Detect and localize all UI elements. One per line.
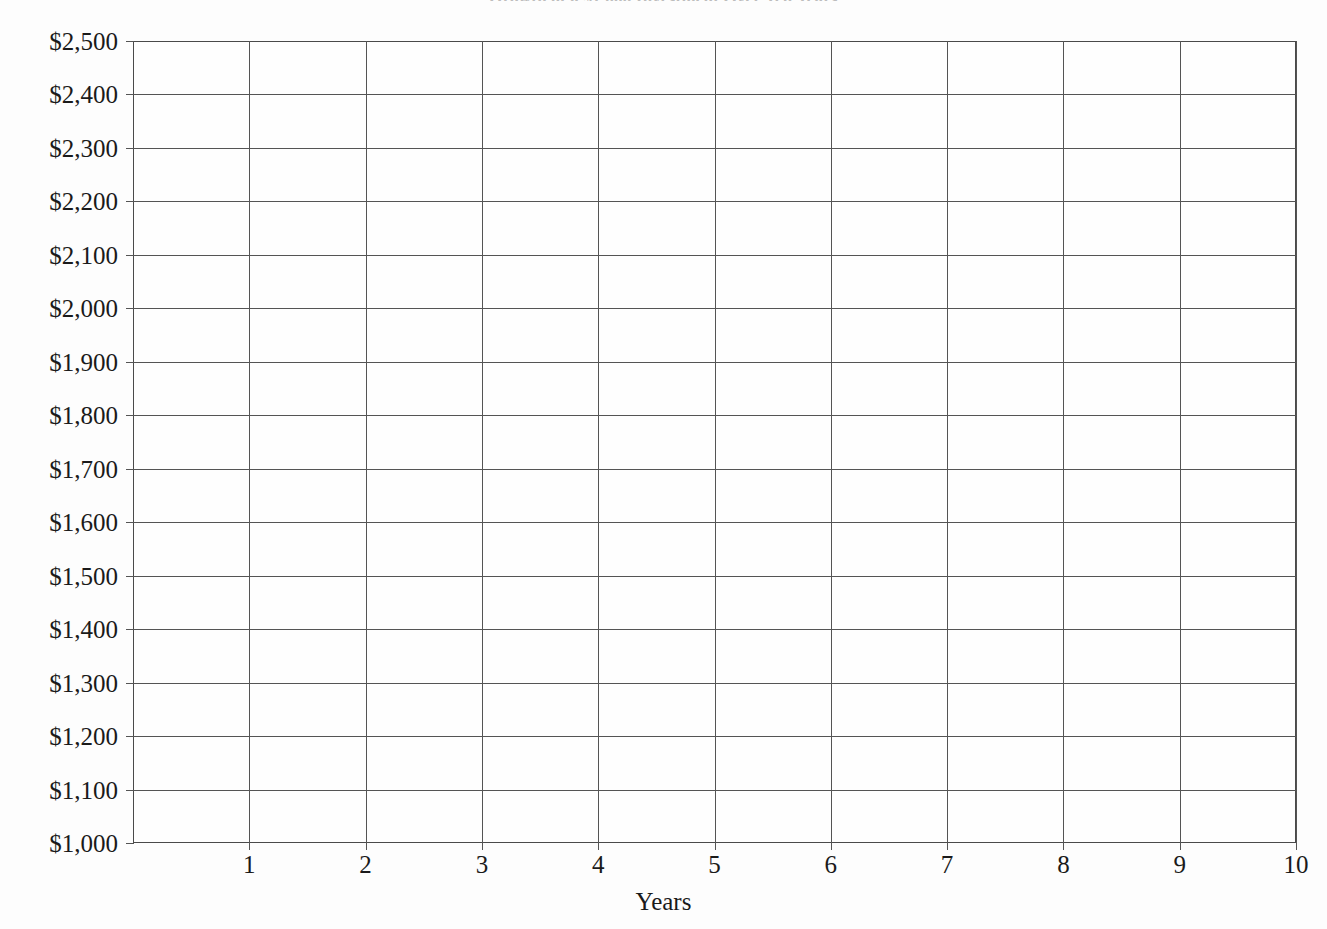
grid-line-horizontal [126, 255, 1296, 256]
y-axis-tick-label: $1,300 [0, 670, 118, 695]
grid-line-vertical [715, 41, 716, 850]
grid-line-horizontal [126, 790, 1296, 791]
grid-line-vertical [947, 41, 948, 850]
y-axis-tick-label: $1,200 [0, 724, 118, 749]
grid-line-vertical [598, 41, 599, 850]
y-axis-tick-label: $1,900 [0, 349, 118, 374]
grid-line-horizontal [126, 736, 1296, 737]
grid-line-vertical [482, 41, 483, 850]
y-axis-tick-label: $2,500 [0, 29, 118, 54]
grid-line-horizontal [126, 94, 1296, 95]
y-axis-tick-label: $2,400 [0, 82, 118, 107]
grid-line-horizontal [126, 415, 1296, 416]
x-axis-tick-label: 9 [1140, 852, 1220, 877]
grid-line-horizontal [126, 522, 1296, 523]
y-axis-tick-label: $1,000 [0, 831, 118, 856]
grid-line-horizontal [126, 308, 1296, 309]
grid-line-vertical [366, 41, 367, 850]
x-axis-tick-label: 8 [1023, 852, 1103, 877]
x-axis-tick-label: 6 [791, 852, 871, 877]
grid-line-vertical [249, 41, 250, 850]
grid-line-horizontal [126, 576, 1296, 577]
grid-line-horizontal [126, 362, 1296, 363]
grid-line-vertical [1296, 41, 1297, 850]
grid-line-horizontal [126, 629, 1296, 630]
plot-area [133, 41, 1296, 843]
y-axis-tick-label: $1,800 [0, 403, 118, 428]
y-axis-tick-label: $2,200 [0, 189, 118, 214]
chart-title: Growth of a $1,000 Investment Over Ten Y… [0, 0, 1327, 1]
x-axis-title: Years [0, 888, 1327, 916]
y-axis-tick-label: $1,400 [0, 617, 118, 642]
grid-line-horizontal [126, 201, 1296, 202]
y-axis-tick-label: $2,100 [0, 242, 118, 267]
x-axis-tick-label: 2 [326, 852, 406, 877]
grid-line-vertical [1063, 41, 1064, 850]
x-axis-tick-label: 5 [675, 852, 755, 877]
x-axis-tick-label: 1 [209, 852, 289, 877]
x-axis-tick-label: 10 [1256, 852, 1327, 877]
grid-line-vertical [1180, 41, 1181, 850]
x-axis-tick-label: 7 [907, 852, 987, 877]
grid-line-horizontal [126, 683, 1296, 684]
y-axis-tick-label: $1,100 [0, 777, 118, 802]
y-axis-tick-label: $1,500 [0, 563, 118, 588]
grid-line-horizontal [126, 148, 1296, 149]
y-axis-tick-label: $2,000 [0, 296, 118, 321]
x-axis-tick-label: 4 [558, 852, 638, 877]
y-axis-tick-label: $1,700 [0, 456, 118, 481]
chart-figure: Growth of a $1,000 Investment Over Ten Y… [0, 0, 1327, 929]
grid-line-vertical [831, 41, 832, 850]
y-axis-tick-label: $1,600 [0, 510, 118, 535]
y-axis-tick [126, 41, 134, 42]
x-axis-tick-label: 3 [442, 852, 522, 877]
y-axis-tick [126, 843, 134, 844]
y-axis-tick-label: $2,300 [0, 135, 118, 160]
grid-line-horizontal [126, 469, 1296, 470]
